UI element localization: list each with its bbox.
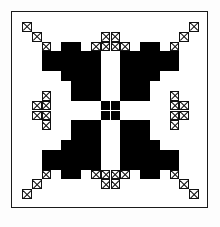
solid-patch-cell [101, 101, 111, 111]
hatched-patch-cell [179, 179, 189, 189]
hatched-patch-cell [42, 170, 52, 180]
solid-patch-cell [120, 150, 130, 160]
solid-patch-cell [71, 130, 81, 140]
solid-patch-cell [81, 150, 91, 160]
solid-patch-cell [170, 150, 180, 160]
solid-patch-cell [130, 51, 140, 61]
solid-patch-cell [111, 101, 121, 111]
solid-patch-cell [150, 150, 160, 160]
solid-patch-cell [61, 61, 71, 71]
solid-patch-cell [120, 61, 130, 71]
solid-patch-cell [42, 61, 52, 71]
hatched-patch-cell [91, 170, 101, 180]
solid-patch-cell [120, 130, 130, 140]
solid-patch-cell [91, 51, 101, 61]
solid-patch-cell [91, 160, 101, 170]
hatched-patch-cell [170, 91, 180, 101]
solid-patch-cell [71, 150, 81, 160]
solid-patch-cell [81, 51, 91, 61]
solid-patch-cell [81, 130, 91, 140]
solid-patch-cell [81, 71, 91, 81]
solid-patch-cell [120, 81, 130, 91]
hatched-patch-cell [32, 179, 42, 189]
solid-patch-cell [160, 61, 170, 71]
solid-patch-cell [160, 150, 170, 160]
hatched-patch-cell [22, 189, 32, 199]
solid-patch-cell [130, 150, 140, 160]
solid-patch-cell [120, 120, 130, 130]
hatched-patch-cell [42, 42, 52, 52]
solid-patch-cell [71, 120, 81, 130]
solid-patch-cell [120, 140, 130, 150]
hatched-patch-cell [111, 179, 121, 189]
solid-patch-cell [81, 160, 91, 170]
solid-patch-cell [130, 160, 140, 170]
hatched-patch-cell [101, 179, 111, 189]
solid-patch-cell [42, 51, 52, 61]
hatched-patch-cell [111, 32, 121, 42]
solid-patch-cell [140, 51, 150, 61]
quilt-block-figure [0, 0, 220, 227]
solid-patch-cell [111, 111, 121, 121]
solid-patch-cell [91, 81, 101, 91]
solid-patch-cell [150, 42, 160, 52]
solid-patch-cell [91, 120, 101, 130]
solid-patch-cell [130, 140, 140, 150]
solid-patch-cell [71, 160, 81, 170]
hatched-patch-cell [120, 42, 130, 52]
solid-patch-cell [130, 120, 140, 130]
solid-patch-cell [61, 170, 71, 180]
solid-patch-cell [71, 42, 81, 52]
solid-patch-cell [71, 61, 81, 71]
solid-patch-cell [71, 51, 81, 61]
solid-patch-cell [160, 51, 170, 61]
hatched-patch-cell [42, 120, 52, 130]
solid-patch-cell [51, 160, 61, 170]
solid-patch-cell [140, 42, 150, 52]
hatched-patch-cell [91, 42, 101, 52]
hatched-patch-cell [111, 42, 121, 52]
solid-patch-cell [140, 150, 150, 160]
solid-patch-cell [150, 140, 160, 150]
hatched-patch-cell [101, 170, 111, 180]
solid-patch-cell [91, 130, 101, 140]
hatched-patch-cell [32, 111, 42, 121]
solid-patch-cell [170, 160, 180, 170]
solid-patch-cell [120, 160, 130, 170]
hatched-patch-cell [170, 42, 180, 52]
solid-patch-cell [130, 91, 140, 101]
solid-patch-cell [91, 150, 101, 160]
solid-patch-cell [61, 71, 71, 81]
hatched-patch-cell [170, 170, 180, 180]
hatched-patch-cell [101, 42, 111, 52]
solid-patch-cell [61, 150, 71, 160]
solid-patch-cell [150, 61, 160, 71]
solid-patch-cell [61, 140, 71, 150]
solid-patch-cell [140, 170, 150, 180]
solid-patch-cell [81, 91, 91, 101]
solid-patch-cell [91, 140, 101, 150]
solid-patch-cell [91, 61, 101, 71]
solid-patch-cell [71, 71, 81, 81]
solid-patch-cell [140, 160, 150, 170]
solid-patch-cell [140, 130, 150, 140]
hatched-patch-cell [179, 101, 189, 111]
hatched-patch-cell [42, 91, 52, 101]
solid-patch-cell [42, 160, 52, 170]
solid-patch-cell [81, 61, 91, 71]
hatched-patch-cell [189, 189, 199, 199]
quilt-block-frame [11, 11, 208, 208]
hatched-patch-cell [170, 111, 180, 121]
hatched-patch-cell [170, 101, 180, 111]
solid-patch-cell [61, 160, 71, 170]
hatched-patch-cell [22, 22, 32, 32]
solid-patch-cell [42, 150, 52, 160]
solid-patch-cell [130, 130, 140, 140]
quilt-pattern-grid [12, 12, 207, 207]
solid-patch-cell [91, 91, 101, 101]
hatched-patch-cell [179, 32, 189, 42]
solid-patch-cell [101, 111, 111, 121]
solid-patch-cell [160, 160, 170, 170]
hatched-patch-cell [120, 170, 130, 180]
solid-patch-cell [130, 81, 140, 91]
